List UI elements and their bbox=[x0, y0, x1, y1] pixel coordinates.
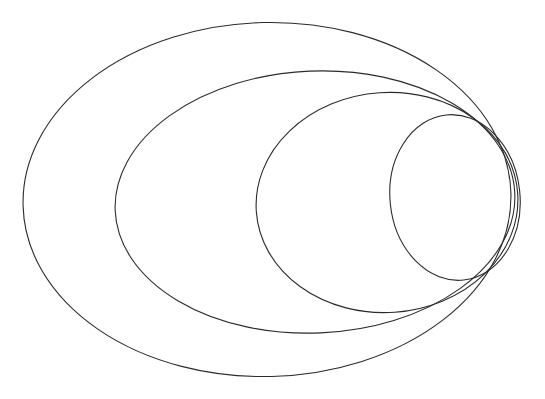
nested-ellipses-figure bbox=[0, 0, 545, 399]
figure-canvas bbox=[0, 0, 545, 399]
figure-background bbox=[0, 0, 545, 399]
